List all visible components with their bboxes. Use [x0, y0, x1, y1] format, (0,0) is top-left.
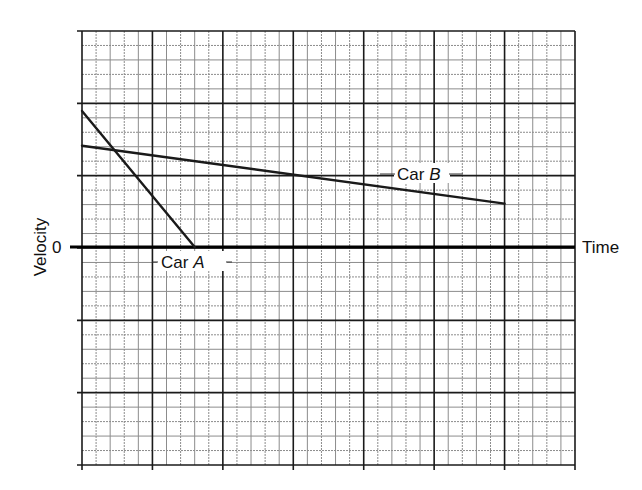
zero-tick-label: 0 [52, 238, 61, 257]
y-axis-label: Velocity [31, 217, 50, 276]
x-axis-label: Time [582, 238, 619, 257]
velocity-time-chart: Car A Car B Time 0 Velocity [0, 0, 642, 490]
car-b-label: Car B [397, 165, 440, 184]
car-a-label: Car A [161, 253, 204, 272]
